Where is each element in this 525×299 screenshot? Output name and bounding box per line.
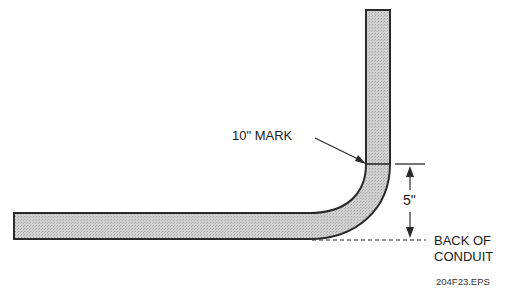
- clipped-caption: [10, 295, 190, 299]
- mark-leader-line: [315, 138, 362, 161]
- dimension-label: 5": [403, 193, 416, 207]
- ten-inch-mark-label: 10" MARK: [232, 129, 292, 142]
- back-of-conduit-label: BACK OF CONDUIT: [434, 233, 493, 265]
- back-of-conduit-line2: CONDUIT: [434, 249, 493, 265]
- mark-leader-arrowhead: [355, 155, 366, 164]
- conduit-bend-diagram: 10" MARK 5" BACK OF CONDUIT 204F23.EPS: [0, 0, 525, 299]
- file-id-label: 204F23.EPS: [436, 277, 490, 287]
- conduit-body: [14, 10, 390, 239]
- dimension-arrow-down-head: [406, 227, 414, 238]
- dimension-arrow-up-head: [406, 166, 414, 177]
- back-of-conduit-line1: BACK OF: [434, 233, 493, 249]
